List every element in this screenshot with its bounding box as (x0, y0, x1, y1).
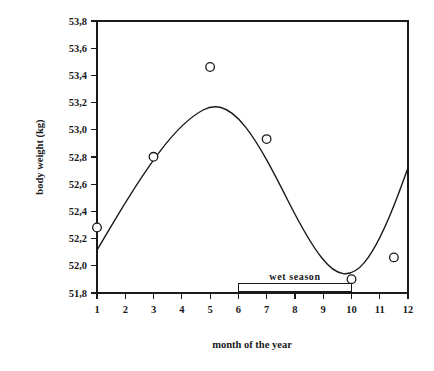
x-tick-label: 9 (321, 304, 326, 315)
data-point (262, 135, 271, 144)
x-tick-label: 4 (179, 304, 185, 315)
y-tick-label: 51,8 (69, 288, 87, 299)
y-axis-title: body weight (kg) (34, 119, 46, 195)
x-axis-title: month of the year (212, 339, 292, 350)
y-tick-label: 53,0 (69, 124, 87, 135)
wet-season-bar (238, 284, 351, 292)
wet-season-label: wet season (269, 271, 320, 282)
chart-figure: 51,8 52,0 52,2 52,4 52,6 52,8 53,0 53,2 … (0, 0, 434, 371)
data-point (93, 223, 102, 232)
y-tick-label: 53,2 (69, 97, 87, 108)
x-tick-label: 7 (264, 304, 269, 315)
chart-svg: 51,8 52,0 52,2 52,4 52,6 52,8 53,0 53,2 … (0, 0, 434, 371)
y-tick-label: 53,8 (69, 16, 87, 27)
x-tick-label: 2 (123, 304, 128, 315)
chart-background (0, 0, 434, 371)
x-tick-label: 11 (375, 304, 385, 315)
y-tick-label: 53,4 (69, 70, 88, 81)
x-tick-label: 5 (207, 304, 212, 315)
x-tick-label: 10 (346, 304, 357, 315)
y-tick-label: 52,4 (69, 206, 88, 217)
x-tick-label: 3 (151, 304, 156, 315)
data-point (206, 63, 215, 72)
x-tick-label: 8 (292, 304, 297, 315)
data-point (390, 253, 399, 262)
y-tick-label: 52,0 (69, 260, 87, 271)
x-tick-label: 6 (236, 304, 241, 315)
y-tick-label: 52,2 (69, 233, 87, 244)
data-point (149, 153, 158, 162)
data-point (347, 275, 356, 284)
y-tick-label: 52,6 (69, 179, 87, 190)
x-tick-label: 12 (403, 304, 414, 315)
x-tick-label: 1 (94, 304, 99, 315)
y-tick-label: 52,8 (69, 152, 87, 163)
y-tick-label: 53,6 (69, 43, 87, 54)
